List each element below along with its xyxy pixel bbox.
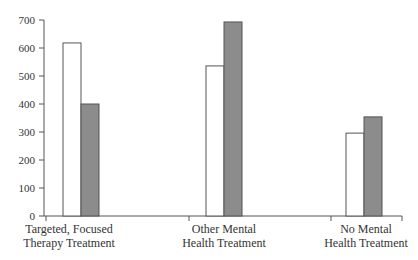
y-tick-label: 500: [19, 70, 36, 82]
y-tick-label: 100: [19, 182, 36, 194]
bar-white: [346, 133, 364, 216]
bars: [63, 22, 382, 216]
y-tick-label: 300: [19, 126, 36, 138]
y-tick-label: 600: [19, 42, 36, 54]
y-tick-label: 0: [30, 210, 36, 222]
y-tick-label: 400: [19, 98, 36, 110]
y-tick-label: 700: [19, 14, 36, 26]
bar-white: [206, 66, 224, 216]
category-label-targeted-therapy: Targeted, Focused Therapy Treatment: [0, 222, 144, 250]
category-label-no-mental-health: No Mental Health Treatment: [291, 222, 418, 250]
bar-chart: 0100200300400500600700: [0, 0, 418, 260]
bar-gray: [364, 117, 382, 216]
bar-gray: [224, 22, 242, 216]
bar-gray: [81, 104, 99, 216]
x-axis: [44, 216, 402, 221]
category-label-other-mental-health: Other Mental Health Treatment: [149, 222, 299, 250]
y-axis: 0100200300400500600700: [19, 14, 45, 222]
y-tick-label: 200: [19, 154, 36, 166]
bar-white: [63, 43, 81, 216]
